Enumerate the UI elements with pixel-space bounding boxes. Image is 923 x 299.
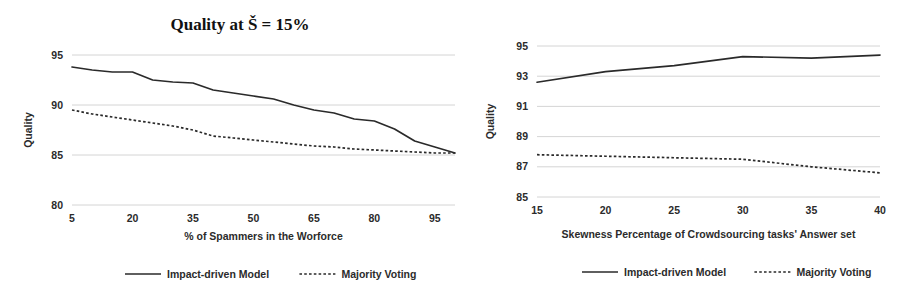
chart-title: Quality at Š = 15% bbox=[170, 15, 309, 34]
x-axis-tick-label: 20 bbox=[600, 204, 612, 216]
x-axis-tick-label: 5 bbox=[69, 212, 75, 224]
line-chart-skewness: 858789919395152025303540QualitySkewness … bbox=[462, 0, 923, 299]
y-axis-tick-label: 95 bbox=[516, 40, 528, 52]
x-axis-tick-label: 50 bbox=[248, 212, 260, 224]
x-axis-tick-label: 35 bbox=[806, 204, 818, 216]
x-axis-tick-label: 80 bbox=[369, 212, 381, 224]
figure-root: Quality at Š = 15%808590955203550658095Q… bbox=[0, 0, 923, 299]
chart-panel-left: Quality at Š = 15%808590955203550658095Q… bbox=[0, 0, 462, 299]
x-axis-tick-label: 20 bbox=[127, 212, 139, 224]
series-line-majority-voting bbox=[537, 155, 880, 173]
x-axis-tick-label: 25 bbox=[668, 204, 680, 216]
legend-label-majority-voting: Majority Voting bbox=[796, 266, 871, 278]
x-axis-title: Skewness Percentage of Crowdsourcing tas… bbox=[562, 228, 856, 240]
y-axis-tick-label: 95 bbox=[51, 49, 63, 61]
legend-label-majority-voting: Majority Voting bbox=[341, 268, 416, 280]
series-line-impact-driven-model bbox=[537, 55, 880, 82]
y-axis-title: Quality bbox=[484, 104, 496, 140]
y-axis-tick-label: 90 bbox=[51, 99, 63, 111]
x-axis-tick-label: 15 bbox=[531, 204, 543, 216]
x-axis-tick-label: 30 bbox=[737, 204, 749, 216]
x-axis-tick-label: 95 bbox=[429, 212, 441, 224]
x-axis-tick-label: 65 bbox=[308, 212, 320, 224]
legend-label-impact-driven-model: Impact-driven Model bbox=[624, 266, 726, 278]
line-chart-spammers: Quality at Š = 15%808590955203550658095Q… bbox=[0, 0, 462, 299]
y-axis-tick-label: 85 bbox=[516, 191, 528, 203]
y-axis-tick-label: 91 bbox=[516, 100, 528, 112]
x-axis-title: % of Spammers in the Worforce bbox=[184, 230, 343, 242]
y-axis-title: Quality bbox=[22, 112, 34, 148]
x-axis-tick-label: 40 bbox=[874, 204, 886, 216]
y-axis-tick-label: 80 bbox=[51, 199, 63, 211]
y-axis-tick-label: 87 bbox=[516, 160, 528, 172]
chart-panel-right: 858789919395152025303540QualitySkewness … bbox=[462, 0, 923, 299]
y-axis-tick-label: 89 bbox=[516, 130, 528, 142]
legend-label-impact-driven-model: Impact-driven Model bbox=[167, 268, 269, 280]
y-axis-tick-label: 85 bbox=[51, 149, 63, 161]
y-axis-tick-label: 93 bbox=[516, 70, 528, 82]
x-axis-tick-label: 35 bbox=[187, 212, 199, 224]
series-line-impact-driven-model bbox=[72, 67, 455, 153]
